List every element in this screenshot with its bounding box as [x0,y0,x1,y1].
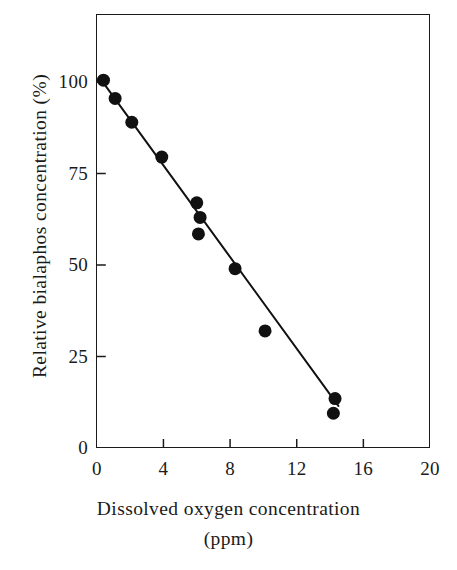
x-axis-title: Dissolved oxygen concentration (ppm) [0,494,457,554]
x-tick-label: 16 [354,459,374,478]
y-tick-label: 25 [68,347,88,366]
y-tick-label: 75 [68,164,88,183]
y-tick-label: 0 [78,438,88,457]
x-tick-label: 4 [159,459,169,478]
x-axis-title-line1: Dissolved oxygen concentration [0,494,457,524]
figure-container: 0255075100 048121620 Relative bialaphos … [0,0,457,570]
x-axis-title-line2: (ppm) [0,524,457,554]
y-tick-label: 50 [68,255,88,274]
x-tick-label: 20 [420,459,440,478]
x-axis-tick-labels: 048121620 [0,459,457,487]
x-tick-label: 0 [92,459,102,478]
y-axis-title: Relative bialaphos concentration (%) [29,26,51,426]
x-tick-label: 12 [287,459,307,478]
plot-frame [96,14,430,448]
x-tick-label: 8 [225,459,235,478]
y-tick-label: 100 [59,72,88,91]
